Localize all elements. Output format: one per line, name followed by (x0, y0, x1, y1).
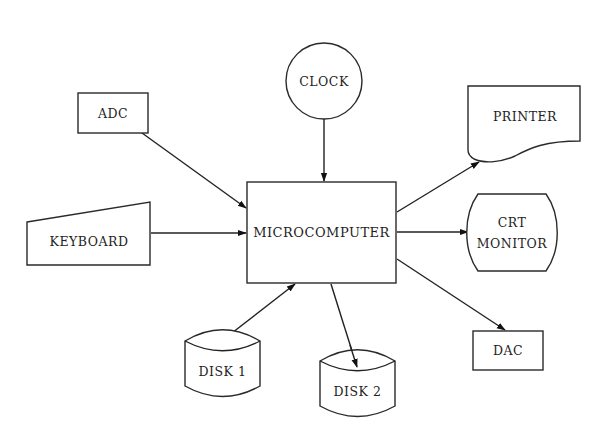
microcomputer-system-diagram: CLOCK ADC KEYBOARD MICROCOMPUTER PRINTER… (0, 0, 605, 440)
dac-node: DAC (473, 331, 543, 370)
keyboard-label: KEYBOARD (50, 234, 129, 249)
clock-label: CLOCK (299, 74, 349, 89)
keyboard-node: KEYBOARD (27, 202, 150, 265)
clock-node: CLOCK (286, 43, 362, 119)
disk2-label: DISK 2 (334, 384, 382, 399)
dac-label: DAC (493, 343, 523, 358)
adc-node: ADC (78, 93, 148, 133)
disk2-node: DISK 2 (320, 350, 395, 417)
microcomputer-node: MICROCOMPUTER (247, 182, 396, 283)
disk1-label: DISK 1 (199, 364, 247, 379)
edge-microcomputer-to-printer (397, 162, 479, 212)
edge-adc-to-microcomputer (142, 133, 246, 208)
crt-display-shape (467, 194, 558, 271)
printer-label: PRINTER (493, 109, 557, 124)
crt-label-line2: MONITOR (477, 236, 548, 251)
microcomputer-label: MICROCOMPUTER (253, 225, 390, 240)
adc-label: ADC (97, 106, 128, 121)
crt-label-line1: CRT (498, 215, 527, 230)
printer-node: PRINTER (468, 86, 580, 162)
crt-monitor-node: CRT MONITOR (467, 194, 558, 271)
disk1-node: DISK 1 (185, 330, 260, 397)
